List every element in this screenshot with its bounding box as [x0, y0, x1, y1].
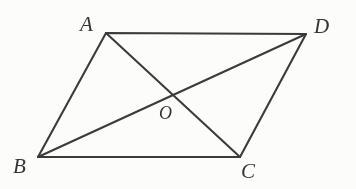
geometry-figure: A B C D O — [0, 0, 356, 189]
diagonal-bd — [38, 34, 306, 157]
label-vertex-d: D — [314, 16, 329, 37]
label-vertex-b: B — [13, 156, 26, 177]
label-vertex-a: A — [80, 14, 93, 35]
label-vertex-c: C — [241, 161, 255, 182]
parallelogram-drawing — [0, 0, 356, 189]
label-point-o: O — [159, 104, 172, 122]
